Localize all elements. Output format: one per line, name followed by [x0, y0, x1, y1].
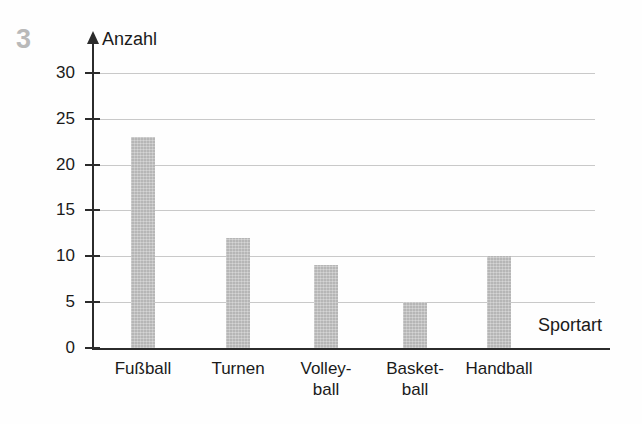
gridline-25 — [92, 119, 595, 120]
y-axis-arrow-icon — [87, 31, 99, 44]
gridline-10 — [92, 256, 595, 257]
y-tick-20 — [85, 164, 100, 166]
category-label-handball: Handball — [444, 358, 554, 379]
gridline-30 — [92, 73, 595, 74]
y-tick-10 — [85, 255, 100, 257]
category-label-line: Fußball — [88, 358, 198, 379]
x-axis-line — [92, 348, 610, 350]
y-tick-0 — [85, 347, 100, 349]
gridline-20 — [92, 165, 595, 166]
y-axis-title: Anzahl — [102, 30, 157, 48]
bar-handball — [487, 256, 511, 348]
gridline-15 — [92, 210, 595, 211]
y-tick-label-20: 20 — [41, 156, 75, 173]
x-axis-title: Sportart — [538, 316, 602, 334]
y-tick-30 — [85, 72, 100, 74]
y-tick-label-15: 15 — [41, 201, 75, 218]
gridline-5 — [92, 302, 595, 303]
y-tick-label-30: 30 — [41, 64, 75, 81]
y-tick-25 — [85, 118, 100, 120]
bar-basketball — [403, 302, 427, 348]
category-label-line: ball — [360, 379, 470, 400]
y-tick-label-10: 10 — [41, 247, 75, 264]
bar-fussball — [131, 137, 155, 348]
y-tick-label-25: 25 — [41, 110, 75, 127]
bar-volleyball — [314, 265, 338, 348]
bar-turnen — [226, 238, 250, 348]
bar-chart-plot-area: 30 25 20 15 10 5 0 Anzahl Sportart Fußba… — [0, 0, 642, 424]
chart-figure: 3 30 25 20 15 10 5 0 An — [0, 0, 642, 424]
y-tick-label-0: 0 — [41, 339, 75, 356]
y-tick-5 — [85, 301, 100, 303]
y-tick-label-5: 5 — [41, 293, 75, 310]
y-tick-15 — [85, 209, 100, 211]
category-label-fussball: Fußball — [88, 358, 198, 379]
category-label-line: Handball — [444, 358, 554, 379]
